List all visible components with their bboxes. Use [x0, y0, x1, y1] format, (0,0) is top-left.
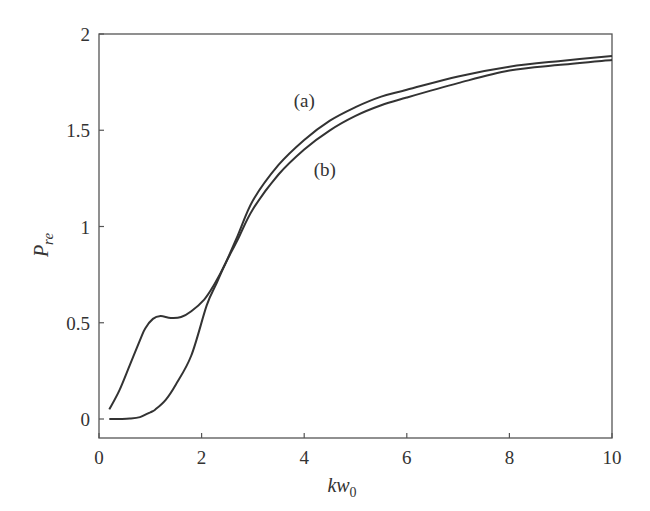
- curve-label-b: (b): [314, 159, 336, 181]
- x-tick-label: 6: [402, 447, 412, 468]
- y-tick-label: 1: [81, 217, 91, 238]
- y-tick-label: 2: [81, 24, 91, 45]
- plot-area: [99, 34, 612, 438]
- y-axis: 00.511.52: [66, 24, 104, 430]
- x-tick-label: 8: [505, 447, 515, 468]
- line-chart: 0246810 00.511.52 (a)(b) kw0 Pre: [0, 0, 650, 511]
- y-tick-label: 1.5: [66, 120, 90, 141]
- x-tick-label: 4: [299, 447, 309, 468]
- series-line-b: [109, 60, 612, 419]
- x-tick-label: 0: [94, 447, 104, 468]
- x-tick-label: 10: [603, 447, 622, 468]
- series-line-a: [109, 56, 612, 409]
- x-axis-label: kw0: [327, 474, 356, 500]
- curve-label-a: (a): [294, 90, 315, 112]
- annotations: (a)(b): [294, 90, 336, 181]
- series-group: [109, 56, 612, 419]
- y-tick-label: 0.5: [66, 313, 90, 334]
- y-axis-label: Pre: [30, 233, 56, 258]
- y-tick-label: 0: [81, 409, 91, 430]
- plot-frame: [99, 34, 612, 438]
- x-tick-label: 2: [197, 447, 207, 468]
